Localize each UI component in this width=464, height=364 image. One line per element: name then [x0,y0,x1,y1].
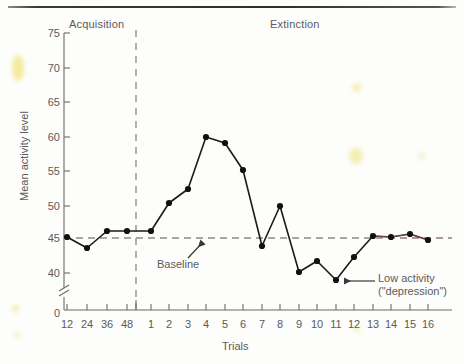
data-point-markers [64,134,431,283]
data-point-e15 [407,231,413,237]
data-point-e3 [185,186,191,192]
baseline-annotation-arrow [188,242,203,258]
data-point-a36 [104,228,110,234]
data-point-e1 [148,228,154,234]
data-point-e12 [351,254,357,260]
data-point-e6 [240,167,246,173]
data-point-e5 [222,140,228,146]
data-point-e10 [314,258,320,264]
data-point-a24 [84,245,90,251]
data-point-e4 [203,134,209,140]
data-point-e13 [370,233,376,239]
data-point-e2 [166,200,172,206]
data-line-mean-activity [67,137,428,280]
x-tick-marks [67,304,428,310]
data-point-e14 [388,234,394,240]
data-point-e9 [296,269,302,275]
chart-plot [0,0,464,364]
data-point-e16 [425,237,431,243]
data-point-a48 [124,228,130,234]
data-point-e11 [333,277,339,283]
data-point-e7 [259,243,265,249]
data-point-a12 [64,234,70,240]
data-line-tail-tint [373,234,428,240]
data-point-e8 [277,203,283,209]
